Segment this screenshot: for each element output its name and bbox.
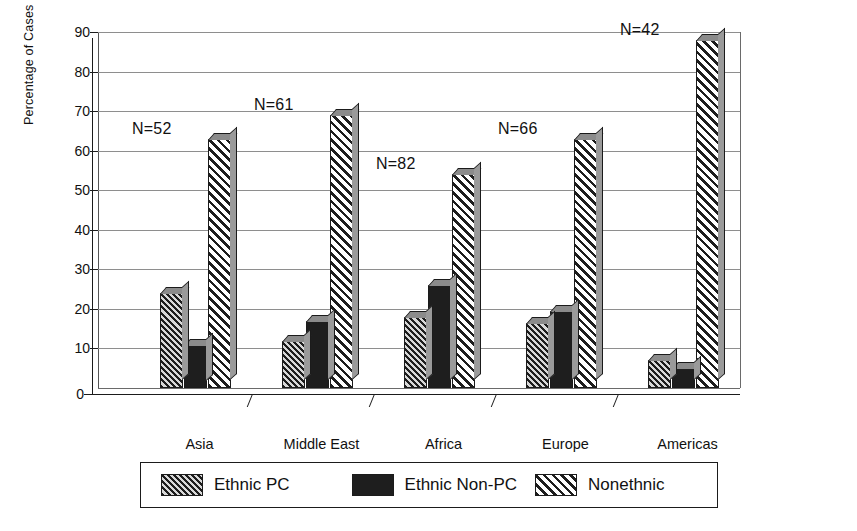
- plot-floor-front: [92, 394, 740, 395]
- bar-americas-ethnic-pc: [648, 360, 671, 388]
- bar-group-americas: [648, 38, 727, 394]
- y-tick-mark-10: [90, 348, 98, 349]
- legend-label-ethnic-non-pc: Ethnic Non-PC: [405, 475, 517, 495]
- y-tick-mark-50: [90, 190, 98, 191]
- x-tick-1: [247, 394, 253, 407]
- legend-swatch-ethnic-pc: [161, 474, 203, 496]
- bar-side-face: [206, 332, 213, 380]
- legend-swatch-nonethnic: [535, 474, 577, 496]
- legend-label-ethnic-pc: Ethnic PC: [214, 475, 290, 495]
- y-axis-spine: [92, 38, 93, 394]
- x-tick-3: [491, 394, 497, 407]
- x-tick-4: [613, 394, 619, 407]
- legend-swatch-ethnic-non-pc: [352, 474, 394, 496]
- legend-item-ethnic-pc: Ethnic PC: [161, 474, 290, 496]
- y-tick-label-10: 10: [48, 341, 90, 355]
- plot-area: 0102030405060708090 AsiaMiddle EastAfric…: [92, 38, 740, 394]
- legend-label-nonethnic: Nonethnic: [588, 475, 665, 495]
- y-tick-label-40: 40: [48, 223, 90, 237]
- y-tick-label-80: 80: [48, 65, 90, 79]
- y-tick-label-0: 0: [42, 387, 84, 401]
- bar-side-face: [426, 305, 433, 380]
- y-tick-label-50: 50: [48, 183, 90, 197]
- x-axis-label-asia: Asia: [130, 436, 269, 452]
- y-tick-mark-60: [90, 151, 98, 152]
- y-tick-label-70: 70: [48, 104, 90, 118]
- bar-europe-ethnic-pc: [526, 323, 549, 388]
- y-tick-label-30: 30: [48, 262, 90, 276]
- y-tick-mark-90: [90, 32, 98, 33]
- plot-right-edge: [740, 32, 741, 388]
- y-tick-mark-40: [90, 230, 98, 231]
- annotation-middle-east: N=61: [254, 96, 294, 114]
- y-tick-mark-80: [90, 72, 98, 73]
- x-axis-label-middle-east: Middle East: [252, 436, 391, 452]
- bar-chart: Percentage of Cases 0102030405060708090 …: [0, 0, 857, 531]
- annotation-africa: N=82: [376, 155, 416, 173]
- y-axis-title-wrap: Percentage of Cases: [12, 0, 36, 420]
- x-tick-2: [369, 394, 375, 407]
- bar-africa-ethnic-pc: [404, 317, 427, 388]
- chart-legend: Ethnic PC Ethnic Non-PC Nonethnic: [140, 462, 718, 508]
- bar-side-face: [182, 281, 189, 380]
- bar-side-face: [450, 273, 457, 380]
- y-tick-label-20: 20: [48, 302, 90, 316]
- legend-item-ethnic-non-pc: Ethnic Non-PC: [352, 474, 517, 496]
- x-axis-label-americas: Americas: [618, 436, 757, 452]
- y-tick-label-90: 90: [48, 25, 90, 39]
- y-axis-spine-back: [98, 32, 99, 388]
- y-tick-mark-70: [90, 111, 98, 112]
- y-tick-mark-0: [84, 394, 92, 395]
- y-axis-title: Percentage of Cases: [22, 0, 36, 125]
- y-tick-mark-30: [90, 269, 98, 270]
- bar-side-face: [718, 28, 725, 380]
- bar-side-face: [230, 127, 237, 380]
- bar-side-face: [572, 299, 579, 380]
- bar-group-asia: [160, 38, 239, 394]
- legend-item-nonethnic: Nonethnic: [535, 474, 665, 496]
- x-axis-label-africa: Africa: [374, 436, 513, 452]
- bar-side-face: [304, 328, 311, 380]
- bar-group-africa: [404, 38, 483, 394]
- bar-group-middle-east: [282, 38, 361, 394]
- bar-side-face: [474, 162, 481, 380]
- bar-americas-nonethnic: [696, 40, 719, 388]
- annotation-europe: N=66: [498, 120, 538, 138]
- annotation-asia: N=52: [132, 120, 172, 138]
- bar-side-face: [596, 127, 603, 380]
- bar-asia-ethnic-pc: [160, 293, 183, 388]
- bar-middle-east-ethnic-pc: [282, 341, 305, 388]
- y-tick-label-60: 60: [48, 144, 90, 158]
- x-axis-label-europe: Europe: [496, 436, 635, 452]
- bar-group-europe: [526, 38, 605, 394]
- bar-side-face: [548, 310, 555, 380]
- y-tick-mark-20: [90, 309, 98, 310]
- annotation-americas: N=42: [620, 21, 660, 39]
- bar-side-face: [328, 308, 335, 380]
- bar-side-face: [352, 103, 359, 380]
